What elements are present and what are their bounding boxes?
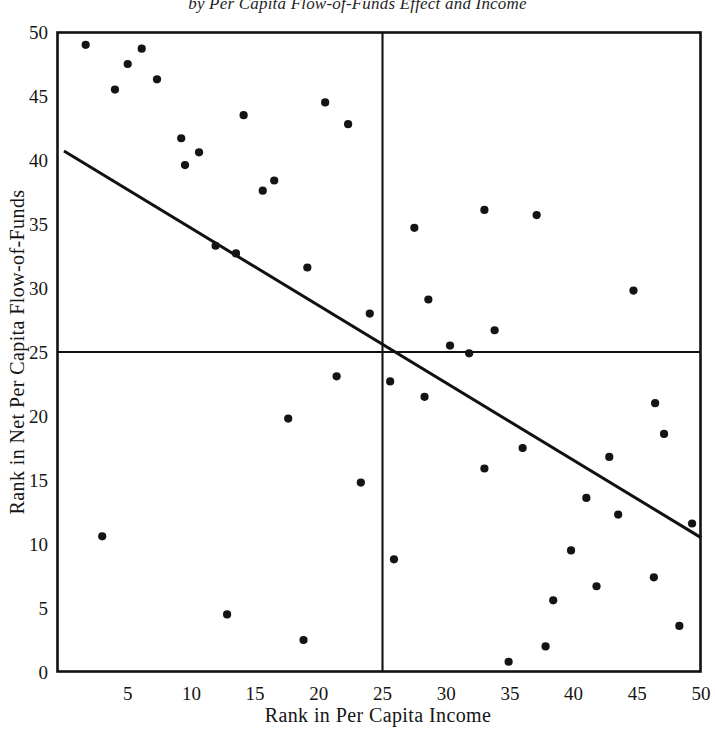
y-tick-label: 45 [29,86,48,107]
y-axis-title: Rank in Net Per Capita Flow-of-Funds [6,190,29,515]
data-point [420,393,428,401]
y-axis-tick-labels: 05101520253035404550 [29,22,48,683]
y-tick-label: 20 [29,406,48,427]
data-point [270,176,278,184]
data-point [688,519,696,527]
data-point [424,295,432,303]
data-point [651,399,659,407]
data-point [480,464,488,472]
data-point [465,349,473,357]
data-point [491,326,499,334]
data-point [366,310,374,318]
data-point [223,610,231,618]
data-point [541,642,549,650]
y-tick-label: 50 [29,22,48,43]
data-point [605,453,613,461]
data-point [195,148,203,156]
data-point [299,636,307,644]
y-tick-label: 35 [29,214,48,235]
data-point [321,98,329,106]
data-point [303,263,311,271]
data-point [98,532,106,540]
data-point [259,187,267,195]
x-tick-label: 25 [373,683,392,704]
y-tick-label: 10 [29,534,48,555]
data-point [390,555,398,563]
data-point [284,414,292,422]
x-tick-label: 40 [564,683,583,704]
x-tick-label: 30 [437,683,456,704]
x-tick-label: 20 [309,683,328,704]
data-point [344,120,352,128]
data-point [660,430,668,438]
data-point [357,478,365,486]
data-point [386,377,394,385]
data-point [519,444,527,452]
x-tick-label: 5 [123,683,133,704]
data-point [124,60,132,68]
scatter-plot-figure: by Per Capita Flow-of-Funds Effect and I… [0,0,715,746]
y-tick-label: 25 [29,342,48,363]
data-point [177,134,185,142]
data-point [629,286,637,294]
data-point [533,211,541,219]
data-point [153,75,161,83]
data-point [410,224,418,232]
y-tick-label: 15 [29,470,48,491]
x-tick-label: 35 [500,683,519,704]
x-tick-label: 45 [628,683,647,704]
x-axis-title: Rank in Per Capita Income [265,704,492,727]
data-point [333,372,341,380]
data-points-group [82,41,697,666]
x-tick-label: 15 [246,683,265,704]
x-axis-tick-labels: 5101520253035404550 [123,683,711,704]
x-tick-label: 10 [182,683,201,704]
data-point [82,41,90,49]
data-point [592,582,600,590]
data-point [111,86,119,94]
x-tick-label: 50 [692,683,711,704]
data-point [650,573,658,581]
y-tick-label: 30 [29,278,48,299]
plot-area: 5101520253035404550 05101520253035404550… [0,0,715,746]
y-tick-label: 0 [39,662,49,683]
data-point [582,494,590,502]
reference-lines-group [58,32,702,672]
data-point [181,161,189,169]
data-point [505,658,513,666]
data-point [232,249,240,257]
data-point [240,111,248,119]
data-point [567,546,575,554]
data-point [480,206,488,214]
data-point [614,510,622,518]
data-point [446,342,454,350]
data-point [138,45,146,53]
y-tick-label: 5 [39,598,49,619]
y-tick-label: 40 [29,150,48,171]
data-point [675,622,683,630]
data-point [212,242,220,250]
data-point [549,596,557,604]
